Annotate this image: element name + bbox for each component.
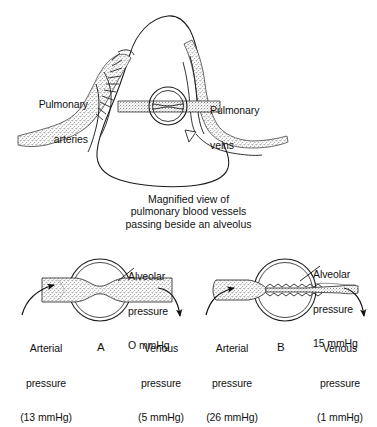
panel-a-arterial-pressure-label: Arterial pressure (13 mmHg) [8, 320, 84, 427]
figure-caption-line1: Magnified view of [0, 193, 377, 205]
panel-b-arterial-pressure-label: Arterial pressure (26 mmHg) [194, 320, 270, 427]
panel-a-arterial-line1: Arterial [8, 343, 84, 355]
figure-caption-line2: pulmonary blood vessels [0, 205, 377, 217]
panel-a-arterial-line3: (13 mmHg) [8, 412, 84, 424]
panel-b-venous-line1: Venous [305, 343, 375, 355]
panel-a-alveolar-line2: pressure [128, 306, 190, 318]
figure-caption-line3: passing beside an alveolus [0, 218, 377, 230]
panel-a-arterial-line2: pressure [8, 378, 84, 390]
panel-b-letter: B [277, 341, 285, 353]
panel-a-venous-line1: Venous [126, 343, 196, 355]
panel-b-arterial-line1: Arterial [194, 343, 270, 355]
panel-a-venous-line3: (5 mmHg) [126, 412, 196, 424]
panel-a-alveolar-line1: Alveolar [128, 271, 190, 283]
panel-a-venous-pressure-label: Venous pressure (5 mmHg) [126, 320, 196, 427]
panel-b-alveolar-line1: Alveolar [313, 269, 375, 281]
figure-caption: Magnified view of pulmonary blood vessel… [0, 193, 377, 230]
label-pulmonary-veins: Pulmonary veins [210, 82, 300, 174]
label-pulmonary-arteries-line2: arteries [10, 134, 88, 146]
panel-b-arterial-line3: (26 mmHg) [194, 412, 270, 424]
label-pulmonary-arteries-line1: Pulmonary [10, 99, 88, 111]
panel-b-arterial-line2: pressure [194, 378, 270, 390]
label-pulmonary-veins-line1: Pulmonary [210, 105, 300, 117]
panel-b-alveolar-line2: pressure [313, 304, 375, 316]
panel-b-venous-line2: pressure [305, 378, 375, 390]
panel-b-venous-line3: (1 mmHg) [305, 412, 375, 424]
label-pulmonary-arteries: Pulmonary arteries [10, 76, 88, 168]
capillary-inflow-b [213, 280, 266, 300]
panel-a-letter: A [97, 341, 105, 353]
label-pulmonary-veins-line2: veins [210, 140, 300, 152]
panel-a-venous-line2: pressure [126, 378, 196, 390]
panel-b-venous-pressure-label: Venous pressure (1 mmHg) [305, 320, 375, 427]
